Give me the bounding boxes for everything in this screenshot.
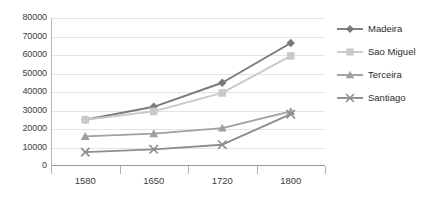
diamond-marker [218, 79, 226, 87]
x-axis-tick-label: 1720 [192, 176, 252, 186]
square-marker [218, 89, 226, 97]
x-axis-tick-label: 1650 [124, 176, 184, 186]
x-axis-tick-label: 1800 [261, 176, 321, 186]
y-axis-tick-label: 40000 [1, 87, 47, 96]
line-chart: 0100002000030000400005000060000700008000… [0, 0, 431, 201]
chart-legend: MadeiraSao MiguelTerceiraSantiago [336, 17, 431, 109]
y-axis-tick-label: 20000 [1, 124, 47, 133]
series-line [85, 56, 291, 120]
square-marker [150, 108, 158, 116]
square-marker [287, 52, 295, 60]
x-axis-tick-mark [120, 166, 121, 174]
x-axis-tick-mark [325, 166, 326, 174]
legend-swatch [336, 23, 364, 35]
y-axis-tick-label: 10000 [1, 143, 47, 152]
legend-item: Sao Miguel [336, 40, 431, 63]
y-axis-tick-label: 0 [1, 161, 47, 170]
x-axis-tick-mark [188, 166, 189, 174]
x-axis-tick-label: 1580 [55, 176, 115, 186]
square-marker [346, 48, 353, 55]
square-marker [81, 116, 89, 124]
y-axis-tick-label: 60000 [1, 50, 47, 59]
legend-label: Madeira [364, 23, 402, 34]
y-axis-tick-label: 30000 [1, 106, 47, 115]
legend-item: Madeira [336, 17, 431, 40]
y-axis-tick-label: 80000 [1, 13, 47, 22]
legend-swatch [336, 69, 364, 81]
y-axis-tick-label: 70000 [1, 32, 47, 41]
legend-item: Santiago [336, 86, 431, 109]
legend-swatch [336, 46, 364, 58]
y-axis-tick-label: 50000 [1, 69, 47, 78]
legend-swatch [336, 92, 364, 104]
x-axis-tick-mark [51, 166, 52, 174]
plot-area [51, 18, 325, 166]
series-line [85, 43, 291, 120]
x-axis-tick-mark [257, 166, 258, 174]
legend-label: Sao Miguel [364, 46, 416, 57]
diamond-marker [346, 25, 354, 33]
legend-label: Santiago [364, 92, 406, 103]
legend-item: Terceira [336, 63, 431, 86]
legend-label: Terceira [364, 69, 402, 80]
series-layer [51, 18, 325, 166]
diamond-marker [287, 39, 295, 47]
